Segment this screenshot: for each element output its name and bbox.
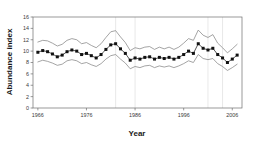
data-point-marker	[221, 56, 224, 59]
x-axis-title: Year	[129, 129, 146, 138]
data-point-marker	[75, 50, 78, 53]
x-tick-label: 1986	[129, 112, 141, 118]
data-point-marker	[41, 49, 44, 52]
data-point-marker	[172, 58, 175, 61]
data-point-marker	[231, 58, 234, 61]
x-tick-label: 1996	[178, 112, 190, 118]
data-point-marker	[36, 51, 39, 54]
data-point-marker	[202, 47, 205, 50]
y-axis-ticks: 0246810121416	[23, 14, 33, 111]
data-point-marker	[134, 56, 137, 59]
data-point-marker	[104, 48, 107, 51]
data-point-marker	[163, 57, 166, 60]
data-point-marker	[119, 47, 122, 50]
abundance-index-chart: 0246810121416 19661976198619962006 Year …	[0, 0, 253, 141]
data-point-marker	[95, 56, 98, 59]
data-point-marker	[192, 52, 195, 55]
data-point-marker	[100, 53, 103, 56]
gridlines-group	[116, 17, 223, 108]
data-point-marker	[61, 54, 64, 57]
data-point-marker	[143, 56, 146, 59]
y-tick-label: 6	[26, 71, 29, 77]
y-tick-label: 8	[26, 59, 29, 65]
y-tick-label: 10	[23, 48, 29, 54]
data-point-marker	[70, 48, 73, 51]
y-tick-label: 4	[26, 82, 29, 88]
data-point-marker	[187, 50, 190, 53]
confidence-band-lower	[38, 55, 237, 71]
data-point-marker	[211, 47, 214, 50]
chart-canvas: 0246810121416 19661976198619962006 Year …	[0, 0, 253, 141]
data-point-marker	[216, 53, 219, 56]
data-point-marker	[206, 48, 209, 51]
data-point-marker	[56, 55, 59, 58]
data-point-marker	[138, 58, 141, 61]
data-point-marker	[182, 53, 185, 56]
y-axis-title: Abundance index	[5, 28, 14, 95]
x-tick-label: 2006	[226, 112, 238, 118]
data-point-marker	[90, 54, 93, 57]
y-tick-label: 0	[26, 105, 29, 111]
x-axis-ticks: 19661976198619962006	[32, 108, 238, 118]
data-point-marker	[177, 56, 180, 59]
data-point-marker	[153, 58, 156, 61]
data-point-marker	[197, 42, 200, 45]
y-tick-label: 12	[23, 37, 29, 43]
data-point-marker	[168, 56, 171, 59]
data-point-marker	[109, 43, 112, 46]
y-tick-label: 2	[26, 94, 29, 100]
data-point-marker	[236, 54, 239, 57]
y-tick-label: 16	[23, 14, 29, 20]
data-point-marker	[226, 61, 229, 64]
y-tick-label: 14	[23, 25, 29, 31]
x-tick-label: 1976	[80, 112, 92, 118]
data-point-marker	[85, 52, 88, 55]
data-point-marker	[129, 59, 132, 62]
data-point-marker	[124, 52, 127, 55]
data-point-marker	[66, 50, 69, 53]
data-point-marker	[46, 50, 49, 53]
x-tick-label: 1966	[32, 112, 44, 118]
data-point-marker	[80, 53, 83, 56]
data-point-marker	[51, 52, 54, 55]
data-point-marker	[148, 55, 151, 58]
data-point-marker	[158, 56, 161, 59]
data-point-marker	[114, 42, 117, 45]
